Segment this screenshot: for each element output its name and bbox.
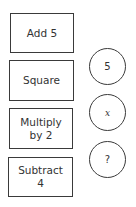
operation-label: Add 5 — [27, 27, 57, 40]
operation-label: Subtract 4 — [18, 164, 63, 190]
operation-label: Square — [23, 74, 60, 87]
operation-box-square: Square — [9, 60, 74, 101]
value-circle-x: x — [89, 94, 126, 131]
value-circle-unknown: ? — [89, 141, 126, 178]
circle-label: ? — [105, 154, 110, 165]
circle-label: 5 — [104, 61, 110, 72]
operation-box-add-5: Add 5 — [10, 13, 74, 53]
value-circle-5: 5 — [89, 48, 126, 85]
operation-box-subtract-4: Subtract 4 — [8, 157, 73, 197]
circle-label: x — [105, 108, 110, 118]
operation-label: Multiply by 2 — [20, 116, 62, 142]
operation-box-multiply-by-2: Multiply by 2 — [9, 108, 73, 149]
